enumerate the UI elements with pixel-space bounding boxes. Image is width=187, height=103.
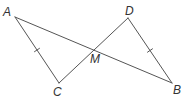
- label-d: D: [125, 4, 134, 18]
- label-m: M: [90, 52, 100, 66]
- tick-mark-db: [148, 49, 153, 52]
- geometry-diagram: A B C D M: [0, 0, 187, 103]
- diagram-svg: A B C D M: [0, 0, 187, 103]
- segment-cd: [59, 18, 128, 83]
- tick-mark-ac: [35, 48, 40, 51]
- label-b: B: [173, 83, 181, 97]
- label-c: C: [53, 85, 62, 99]
- label-a: A: [2, 5, 11, 19]
